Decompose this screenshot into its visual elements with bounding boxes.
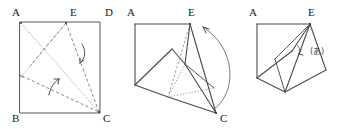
label-c-panel1: C	[103, 112, 110, 124]
square-outline-abcd	[20, 22, 100, 113]
fold-motion-arc	[203, 27, 230, 110]
label-angle-a-panel3: (あ)	[310, 47, 324, 56]
fold-line-e-c	[66, 23, 99, 112]
figure-board: A E D B C	[0, 0, 340, 129]
vertex-dot-c-panel2	[215, 112, 217, 114]
edge-midright-to-c	[185, 64, 216, 113]
inner-crease-fold-panel3	[275, 59, 285, 92]
fold-motion-arrow-head	[203, 27, 209, 33]
label-b-panel1: B	[12, 112, 19, 124]
edge-leftvertex-to-e-panel3	[257, 51, 292, 78]
edge-crease-mid	[172, 49, 185, 64]
label-a-panel1: A	[12, 6, 20, 18]
edge-midright-extend-to-c	[185, 64, 214, 88]
edge-bottommid-to-c	[168, 97, 216, 113]
edge-e-to-c	[190, 24, 216, 113]
edge-bottom-to-e-panel3	[285, 24, 310, 92]
panel-flat-square: A E D B C	[12, 6, 113, 124]
vertex-dot-e-panel2	[189, 23, 191, 25]
geometry-figure-svg: A E D B C	[0, 0, 340, 129]
label-e-panel1: E	[70, 6, 77, 18]
vertex-dot-c	[98, 111, 100, 113]
label-e-panel3: E	[308, 6, 315, 18]
edge-bottom-to-right-panel3	[285, 70, 326, 92]
label-c-panel2: C	[220, 112, 227, 124]
edge-leftvertex-to-bottom-panel3	[257, 78, 285, 92]
crease-a-to-c	[21, 23, 99, 112]
edge-e-to-midright	[185, 24, 190, 64]
vertex-dot-e	[65, 22, 67, 24]
vertex-dot-e-panel3	[309, 23, 311, 25]
edge-leftvertex-to-bottommid	[135, 85, 168, 97]
panel-partial-fold: A E C	[127, 6, 230, 124]
panel-folded-solid: A E (あ)	[249, 6, 326, 92]
hidden-edge-e-to-bottommid	[168, 24, 190, 97]
label-e-panel2: E	[188, 6, 195, 18]
fold-line-e-diagonal	[30, 23, 66, 66]
angle-arc-a-panel3	[296, 44, 299, 54]
vertex-dot-a	[20, 22, 22, 24]
label-a-panel2: A	[127, 6, 135, 18]
label-d-panel1: D	[105, 6, 113, 18]
hidden-edge-bottommid-to-c	[168, 88, 214, 97]
label-a-panel3: A	[249, 6, 257, 18]
inner-crease-e-panel3	[275, 24, 310, 59]
hidden-edge-bottommid-to-midright	[168, 64, 185, 97]
edge-leftvertex-to-e	[135, 49, 172, 85]
